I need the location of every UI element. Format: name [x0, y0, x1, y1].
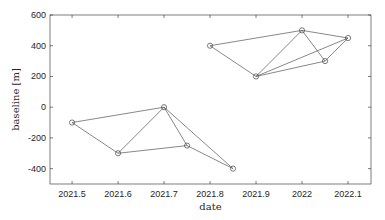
x-tick-label: 2021.7 — [150, 189, 178, 199]
x-tick-labels: 2021.52021.62021.72021.82021.920222022.1 — [58, 189, 361, 199]
y-tick-label: -400 — [28, 164, 46, 174]
y-tick-label: -200 — [28, 133, 46, 143]
y-tick-label: 600 — [31, 10, 46, 20]
y-tick-label: 200 — [31, 71, 46, 81]
x-tick-label: 2021.9 — [242, 189, 270, 199]
y-tick-labels: -400-2000200400600 — [28, 10, 46, 174]
y-axis-label: baseline [m] — [10, 68, 21, 131]
x-tick-label: 2021.5 — [58, 189, 86, 199]
x-tick-label: 2021.6 — [104, 189, 132, 199]
x-axis-label: date — [199, 201, 221, 212]
x-tick-label: 2022 — [292, 189, 312, 199]
y-tick-label: 0 — [41, 102, 46, 112]
y-tick-label: 400 — [31, 41, 46, 51]
x-tick-label: 2021.8 — [196, 189, 224, 199]
plot-area — [50, 15, 371, 184]
x-tick-label: 2022.1 — [334, 189, 362, 199]
baseline-date-chart: 2021.52021.62021.72021.82021.920222022.1… — [0, 0, 385, 220]
